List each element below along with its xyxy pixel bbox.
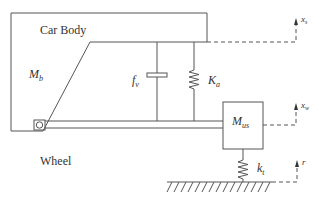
body-mass-label: Mb — [29, 68, 43, 83]
road-input-reference — [272, 166, 297, 182]
road-input-label: r — [302, 158, 306, 167]
ground — [167, 182, 272, 192]
wheel-displacement-reference — [263, 109, 296, 125]
wheel-label: Wheel — [40, 155, 71, 167]
car-body-label: Car Body — [40, 24, 86, 36]
quarter-car-diagram: Car Body Wheel Mb Mus fv Ka kt xs xw r — [0, 0, 319, 203]
suspension-spring — [189, 42, 199, 121]
wheel-displacement-arrow-icon — [294, 103, 298, 110]
damper — [147, 42, 167, 121]
suspension-spring-label: Ka — [208, 74, 220, 89]
pivot-joint — [34, 120, 45, 130]
tire-spring-label: kt — [257, 162, 265, 177]
road-input-arrow-icon — [295, 160, 299, 167]
wheel-displacement-label: xw — [301, 101, 309, 111]
body-displacement-reference — [207, 24, 296, 42]
body-displacement-label: xs — [301, 15, 307, 25]
tire-spring — [238, 149, 248, 182]
suspension-arm — [45, 121, 223, 128]
damper-force-label: fv — [132, 74, 139, 89]
body-displacement-arrow-icon — [294, 18, 298, 25]
unsprung-mass-label: Mus — [232, 115, 249, 130]
